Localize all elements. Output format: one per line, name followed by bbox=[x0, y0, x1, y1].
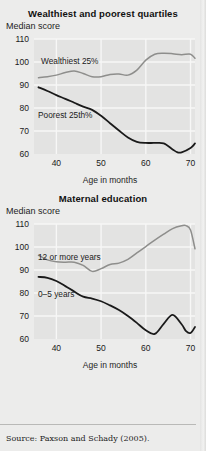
x-axis-tick-label: 60 bbox=[141, 343, 151, 353]
chart-1-y-axis-title: Median score bbox=[6, 21, 206, 31]
x-axis-tick-label: 60 bbox=[141, 158, 151, 168]
source-note: Source: Paxson and Schady (2005). bbox=[6, 434, 149, 443]
chart-panel-maternal: Maternal education Median score 60708090… bbox=[0, 193, 206, 370]
chart-1-svg: 6070809010011040506070Wealthiest 25%Poor… bbox=[0, 31, 206, 176]
y-axis-tick-label: 60 bbox=[20, 149, 30, 159]
chart-2-title: Maternal education bbox=[0, 193, 206, 204]
x-axis-tick-label: 70 bbox=[186, 343, 196, 353]
y-axis-tick-label: 70 bbox=[20, 126, 30, 136]
x-axis-tick-label: 50 bbox=[96, 343, 106, 353]
x-axis-tick-label: 40 bbox=[52, 343, 62, 353]
y-axis-tick-label: 70 bbox=[20, 311, 30, 321]
y-axis-tick-label: 90 bbox=[20, 265, 30, 275]
x-axis-tick-label: 70 bbox=[186, 158, 196, 168]
series-label-gray: Wealthiest 25% bbox=[41, 56, 99, 66]
chart-panel-quartiles: Wealthiest and poorest quartiles Median … bbox=[0, 8, 206, 185]
series-label-black: 0–5 years bbox=[38, 289, 74, 299]
x-axis-tick-label: 40 bbox=[52, 158, 62, 168]
chart-2-x-axis-title: Age in months bbox=[14, 360, 206, 370]
chart-2-plot: 607080901001104050607012 or more years0–… bbox=[0, 216, 206, 361]
source-divider bbox=[0, 424, 196, 425]
y-axis-tick-label: 80 bbox=[20, 288, 30, 298]
y-axis-tick-label: 100 bbox=[15, 242, 29, 252]
series-label-gray: 12 or more years bbox=[38, 252, 101, 262]
chart-1-x-axis-title: Age in months bbox=[14, 175, 206, 185]
y-axis-tick-label: 110 bbox=[15, 219, 29, 229]
y-axis-tick-label: 110 bbox=[15, 34, 29, 44]
x-axis-tick-label: 50 bbox=[96, 158, 106, 168]
series-label-black: Poorest 25th% bbox=[38, 110, 93, 120]
chart-1-plot: 6070809010011040506070Wealthiest 25%Poor… bbox=[0, 31, 206, 176]
y-axis-tick-label: 80 bbox=[20, 103, 30, 113]
chart-2-svg: 607080901001104050607012 or more years0–… bbox=[0, 216, 206, 361]
y-axis-tick-label: 60 bbox=[20, 334, 30, 344]
chart-2-y-axis-title: Median score bbox=[6, 206, 206, 216]
chart-1-title: Wealthiest and poorest quartiles bbox=[0, 8, 206, 19]
y-axis-tick-label: 100 bbox=[15, 57, 29, 67]
y-axis-tick-label: 90 bbox=[20, 80, 30, 90]
